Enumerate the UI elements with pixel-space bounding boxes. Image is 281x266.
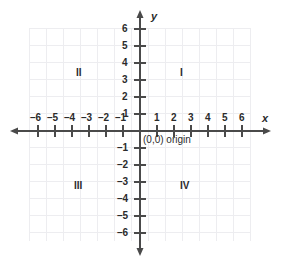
- y-axis-arrow-bottom: [137, 248, 144, 256]
- y-tick-label-pos4: 4: [122, 58, 128, 68]
- x-tick-label-pos1: 1: [154, 113, 160, 123]
- quadrant-label-ii: II: [76, 68, 82, 78]
- y-tick-label-neg5: –5: [117, 211, 128, 221]
- x-tick-label-neg6: –6: [30, 113, 41, 123]
- x-axis-name: x: [262, 113, 268, 124]
- y-tick-label-pos6: 6: [122, 24, 128, 34]
- y-tick-label-pos2: 2: [122, 92, 128, 102]
- y-tick-label-neg4: –4: [117, 194, 128, 204]
- x-tick-label-pos2: 2: [171, 113, 177, 123]
- y-tick-label-neg3: –3: [117, 177, 128, 187]
- coordinate-plane-figure: –6 –5 –4 –3 –2 –1 1 2 3 4 5 6 6 5 4 3 2 …: [0, 0, 281, 266]
- x-tick-label-neg3: –3: [81, 113, 92, 123]
- y-axis-name: y: [151, 11, 157, 22]
- x-tick-label-pos5: 5: [222, 113, 228, 123]
- quadrant-label-iii: III: [74, 181, 82, 191]
- quadrant-label-i: I: [180, 68, 183, 78]
- x-tick-label-neg4: –4: [64, 113, 75, 123]
- y-tick-label-neg2: –2: [117, 160, 128, 170]
- x-tick-label-neg5: –5: [47, 113, 58, 123]
- y-tick-label-pos1: 1: [123, 109, 129, 119]
- y-tick-label-pos3: 3: [122, 75, 128, 85]
- origin-label: (0,0) origin: [143, 135, 191, 145]
- x-tick-label-pos4: 4: [205, 113, 211, 123]
- y-axis-arrow-top: [137, 10, 144, 18]
- x-tick-label-pos3: 3: [188, 113, 194, 123]
- coordinate-plane-graphic: [0, 0, 281, 266]
- x-tick-label-pos6: 6: [239, 113, 245, 123]
- y-tick-label-pos5: 5: [122, 41, 128, 51]
- quadrant-label-iv: IV: [180, 181, 189, 191]
- x-axis-arrow-left: [10, 128, 18, 135]
- x-axis-arrow-right: [263, 128, 271, 135]
- y-tick-label-neg6: –6: [117, 228, 128, 238]
- y-tick-label-neg1: –1: [117, 143, 128, 153]
- x-tick-label-neg2: –2: [98, 113, 109, 123]
